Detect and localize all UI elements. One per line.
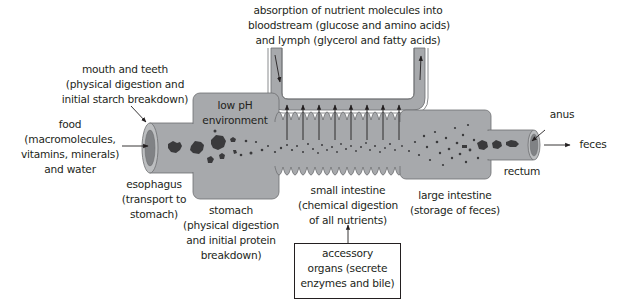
accessory-organs-label: accessory organs (secrete enzymes and bi… [294,246,401,291]
small-intestine-shape [275,112,403,175]
absorption-vessel [271,48,425,110]
rectum-label: rectum [497,164,547,179]
absorption-label: absorption of nutrient molecules into bl… [248,3,448,48]
stomach-label: stomach (physical digestion and initial … [180,203,282,263]
mouth-teeth-label: mouth and teeth (physical digestion and … [55,62,195,107]
anus-label: anus [542,107,582,122]
feces-label: feces [573,137,613,152]
low-ph-label: low pH environment [195,98,275,128]
mouth-pointer-arrow [131,106,146,122]
large-intestine-shape [400,110,491,179]
large-intestine-label: large intestine (storage of feces) [405,188,505,218]
food-label: food (macromolecules, vitamins, minerals… [18,117,122,177]
small-intestine-label: small intestine (chemical digestion of a… [290,183,406,228]
